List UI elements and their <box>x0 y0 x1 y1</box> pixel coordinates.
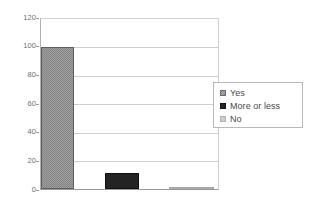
y-tick-mark-20 <box>36 161 39 162</box>
y-tick-label-80: 80 <box>2 71 36 79</box>
legend-item-more-or-less[interactable]: More or less <box>220 100 302 112</box>
legend: Yes More or less No <box>213 82 303 128</box>
y-tick-mark-80 <box>36 75 39 76</box>
legend-item-yes[interactable]: Yes <box>220 87 302 99</box>
y-tick-label-0: 0 <box>2 186 36 194</box>
y-tick-label-100: 100 <box>2 42 36 50</box>
legend-label-no: No <box>230 114 242 124</box>
y-tick-mark-60 <box>36 104 39 105</box>
legend-swatch-icon-more-or-less <box>220 103 226 109</box>
legend-item-no[interactable]: No <box>220 113 302 125</box>
y-tick-mark-0 <box>36 190 39 191</box>
y-tick-label-20: 20 <box>2 157 36 165</box>
y-tick-mark-120 <box>36 18 39 19</box>
bar-more-or-less[interactable] <box>105 173 139 189</box>
y-axis: 120 100 80 60 40 20 0 <box>0 0 36 209</box>
legend-label-yes: Yes <box>230 88 245 98</box>
y-tick-label-120: 120 <box>2 14 36 22</box>
y-tick-mark-40 <box>36 132 39 133</box>
legend-label-more-or-less: More or less <box>230 101 280 111</box>
y-tick-mark-100 <box>36 46 39 47</box>
bar-no[interactable] <box>169 187 214 189</box>
bar-yes[interactable] <box>41 47 74 189</box>
legend-swatch-icon-no <box>220 116 226 122</box>
bar-chart: 120 100 80 60 40 20 0 Yes More or less <box>0 0 315 209</box>
y-tick-label-40: 40 <box>2 128 36 136</box>
legend-swatch-icon-yes <box>220 90 226 96</box>
y-tick-label-60: 60 <box>2 100 36 108</box>
plot-area <box>40 18 219 190</box>
